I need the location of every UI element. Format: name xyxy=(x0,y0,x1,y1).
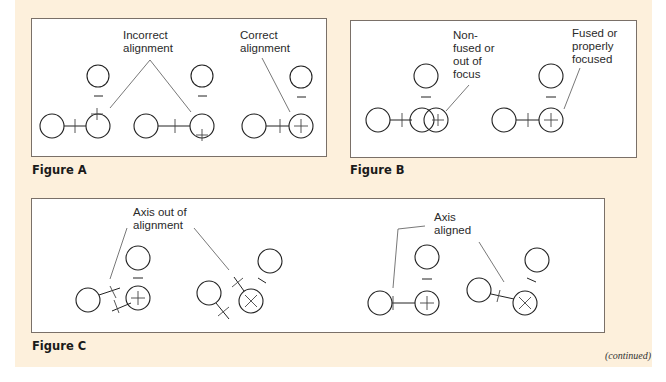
figure-a-label: Figure A xyxy=(32,163,87,177)
note-line: Axis out of xyxy=(133,206,187,219)
note-line: focused xyxy=(572,53,617,66)
figure-b-nonfused-note: Non- fused or out of focus xyxy=(453,29,495,81)
note-line: alignment xyxy=(133,219,187,232)
note-line: focus xyxy=(453,68,495,81)
note-line: alignment xyxy=(123,42,173,55)
note-line: alignment xyxy=(240,42,290,55)
figure-a-correct-note: Correct alignment xyxy=(240,29,290,55)
figure-c-label: Figure C xyxy=(32,339,86,353)
note-line: aligned xyxy=(434,224,471,237)
note-line: properly xyxy=(572,40,617,53)
figure-c-out-note: Axis out of alignment xyxy=(133,206,187,232)
figure-a-incorrect-note: Incorrect alignment xyxy=(123,29,173,55)
figure-c-aligned-note: Axis aligned xyxy=(434,211,471,237)
continued-note: (continued) xyxy=(605,350,651,361)
note-line: Non- xyxy=(453,29,495,42)
note-line: Fused or xyxy=(572,27,617,40)
figure-b-label: Figure B xyxy=(350,163,404,177)
note-line: Incorrect xyxy=(123,29,173,42)
note-line: fused or xyxy=(453,42,495,55)
note-line: Axis xyxy=(434,211,471,224)
figure-c-box xyxy=(31,198,605,333)
note-line: Correct xyxy=(240,29,290,42)
figure-b-fused-note: Fused or properly focused xyxy=(572,27,617,66)
note-line: out of xyxy=(453,55,495,68)
